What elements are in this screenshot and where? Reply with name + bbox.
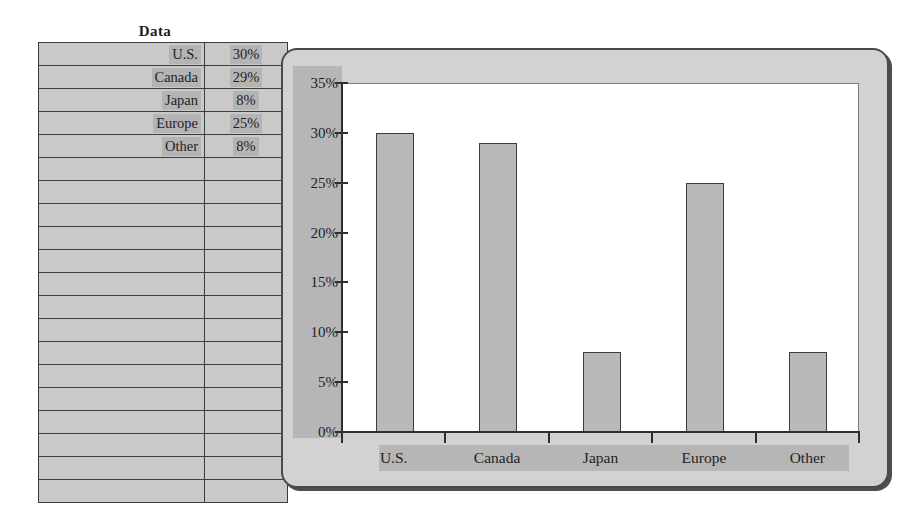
table-cell-label[interactable]	[39, 181, 205, 204]
table-cell-value[interactable]: 8%	[205, 135, 288, 158]
y-axis-tick-mark	[335, 232, 348, 234]
table-cell-value-text: 8%	[233, 91, 258, 110]
y-axis-tick-label: 35%	[293, 75, 338, 91]
table-cell-value[interactable]	[205, 411, 288, 434]
table-cell-label[interactable]: Other	[39, 135, 205, 158]
table-row[interactable]	[39, 342, 288, 365]
table-cell-label[interactable]	[39, 342, 205, 365]
x-axis-tick-label: Canada	[445, 445, 548, 471]
table-row[interactable]: Europe25%	[39, 112, 288, 135]
x-axis-tick-mark	[341, 432, 343, 443]
y-axis-tick-label: 0%	[293, 424, 338, 440]
y-axis-tick-labels: 0%5%10%15%20%25%30%35%	[293, 66, 338, 438]
data-table[interactable]: U.S.30%Canada29%Japan8%Europe25%Other8%	[38, 42, 288, 503]
table-cell-value[interactable]	[205, 342, 288, 365]
table-cell-label[interactable]	[39, 250, 205, 273]
chart-plot-area	[342, 83, 859, 432]
table-cell-label[interactable]: U.S.	[39, 43, 205, 66]
table-cell-value[interactable]	[205, 365, 288, 388]
table-cell-label[interactable]	[39, 365, 205, 388]
table-row[interactable]	[39, 480, 288, 503]
table-cell-label[interactable]: Japan	[39, 89, 205, 112]
table-cell-value-text: 25%	[230, 114, 263, 133]
bar[interactable]	[376, 133, 414, 432]
table-row[interactable]	[39, 411, 288, 434]
table-cell-value[interactable]	[205, 434, 288, 457]
table-cell-label[interactable]	[39, 319, 205, 342]
table-cell-value[interactable]	[205, 319, 288, 342]
x-axis-line	[341, 431, 860, 433]
table-cell-value[interactable]	[205, 158, 288, 181]
table-row[interactable]	[39, 158, 288, 181]
bar-chart-frame[interactable]: 0%5%10%15%20%25%30%35% U.S.CanadaJapanEu…	[281, 48, 889, 488]
x-axis-tick-labels: U.S.CanadaJapanEuropeOther	[342, 445, 859, 471]
table-cell-label[interactable]: Canada	[39, 66, 205, 89]
table-row[interactable]: Japan8%	[39, 89, 288, 112]
chart-bars-container	[343, 84, 858, 432]
y-axis-tick-label: 5%	[293, 374, 338, 390]
table-row[interactable]	[39, 365, 288, 388]
y-axis-tick-mark	[335, 182, 348, 184]
table-row[interactable]	[39, 204, 288, 227]
table-cell-value-text: 29%	[230, 68, 263, 87]
table-row[interactable]: U.S.30%	[39, 43, 288, 66]
bar[interactable]	[686, 183, 724, 432]
table-cell-value[interactable]	[205, 204, 288, 227]
table-cell-label[interactable]	[39, 388, 205, 411]
table-cell-value[interactable]	[205, 388, 288, 411]
table-cell-label-text: Japan	[162, 91, 201, 110]
y-axis-tick-mark	[335, 331, 348, 333]
x-axis-tick-label: Japan	[549, 445, 652, 471]
table-row[interactable]	[39, 457, 288, 480]
table-cell-value[interactable]	[205, 181, 288, 204]
table-cell-label-text: Canada	[152, 68, 201, 87]
table-row[interactable]: Canada29%	[39, 66, 288, 89]
table-row[interactable]	[39, 181, 288, 204]
x-axis-tick-label: U.S.	[342, 445, 445, 471]
table-row[interactable]	[39, 319, 288, 342]
table-cell-value[interactable]	[205, 457, 288, 480]
table-cell-label[interactable]: Europe	[39, 112, 205, 135]
table-cell-label[interactable]	[39, 434, 205, 457]
table-cell-label[interactable]	[39, 227, 205, 250]
x-axis-tick-mark	[858, 432, 860, 443]
table-cell-value[interactable]	[205, 480, 288, 503]
x-axis-tick-label: Europe	[652, 445, 755, 471]
table-row[interactable]	[39, 250, 288, 273]
table-cell-label[interactable]	[39, 480, 205, 503]
table-cell-value[interactable]: 29%	[205, 66, 288, 89]
table-cell-label[interactable]	[39, 273, 205, 296]
table-row[interactable]	[39, 296, 288, 319]
y-axis-tick-label: 25%	[293, 175, 338, 191]
table-row[interactable]	[39, 227, 288, 250]
x-axis-tick-mark	[755, 432, 757, 443]
table-cell-label[interactable]	[39, 204, 205, 227]
table-row[interactable]	[39, 273, 288, 296]
bar[interactable]	[583, 352, 621, 432]
table-cell-value-text: 8%	[233, 137, 258, 156]
y-axis-tick-mark	[335, 281, 348, 283]
y-axis-tick-label: 10%	[293, 324, 338, 340]
bar[interactable]	[789, 352, 827, 432]
table-cell-label[interactable]	[39, 158, 205, 181]
table-row[interactable]: Other8%	[39, 135, 288, 158]
table-cell-value[interactable]	[205, 273, 288, 296]
table-cell-value[interactable]	[205, 250, 288, 273]
table-cell-value[interactable]	[205, 227, 288, 250]
bar[interactable]	[479, 143, 517, 432]
table-row[interactable]	[39, 388, 288, 411]
table-cell-value[interactable]: 25%	[205, 112, 288, 135]
table-cell-label[interactable]	[39, 411, 205, 434]
y-axis-tick-label: 15%	[293, 274, 338, 290]
x-axis-tick-mark	[444, 432, 446, 443]
table-cell-label[interactable]	[39, 457, 205, 480]
data-table-title: Data	[38, 22, 272, 41]
table-cell-label[interactable]	[39, 296, 205, 319]
x-axis-tick-mark	[548, 432, 550, 443]
table-cell-value[interactable]	[205, 296, 288, 319]
table-row[interactable]	[39, 434, 288, 457]
table-cell-value[interactable]: 30%	[205, 43, 288, 66]
data-table-body: U.S.30%Canada29%Japan8%Europe25%Other8%	[39, 43, 288, 503]
table-cell-value[interactable]: 8%	[205, 89, 288, 112]
data-table-panel: Data U.S.30%Canada29%Japan8%Europe25%Oth…	[38, 22, 272, 503]
